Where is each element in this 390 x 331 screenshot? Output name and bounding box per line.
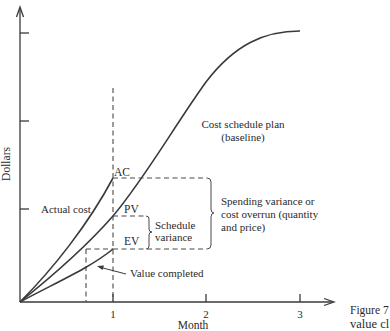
figure-caption-line1: Figure 7 xyxy=(350,304,389,317)
pv-marker-label: PV xyxy=(124,203,139,215)
ev-marker-label: EV xyxy=(124,235,140,247)
x-tick-label-1: 1 xyxy=(110,308,116,320)
figure-caption-line2: value cl xyxy=(350,317,390,331)
plan-curve-label-line2: (baseline) xyxy=(221,131,265,144)
spending-variance-label-line3: and price) xyxy=(221,221,266,234)
plan-curve xyxy=(20,31,300,302)
spending-variance-label-line1: Spending variance or xyxy=(221,195,315,207)
spending-variance-label-line2: cost overrun (quantity xyxy=(221,208,319,221)
y-axis-label: Dollars xyxy=(0,147,12,181)
plan-curve-label-line1: Cost schedule plan xyxy=(201,118,285,130)
actual-cost-curve xyxy=(20,178,113,302)
actual-cost-label: Actual cost xyxy=(41,203,91,215)
schedule-variance-label-line1: Schedule xyxy=(155,219,195,231)
earned-value-diagram: 1 2 3 Month Dollars AC PV EV Cost schedu… xyxy=(0,0,390,331)
earned-value-curve xyxy=(20,249,113,302)
x-axis xyxy=(20,294,334,306)
value-completed-label: Value completed xyxy=(130,267,204,279)
schedule-variance-label-line2: variance xyxy=(155,231,192,243)
y-axis xyxy=(17,7,30,302)
x-tick-label-3: 3 xyxy=(297,308,303,320)
value-completed-leader xyxy=(97,266,126,275)
x-axis-label: Month xyxy=(178,319,209,331)
leader-arrow-icon xyxy=(97,266,104,271)
ac-marker-label: AC xyxy=(114,166,130,178)
